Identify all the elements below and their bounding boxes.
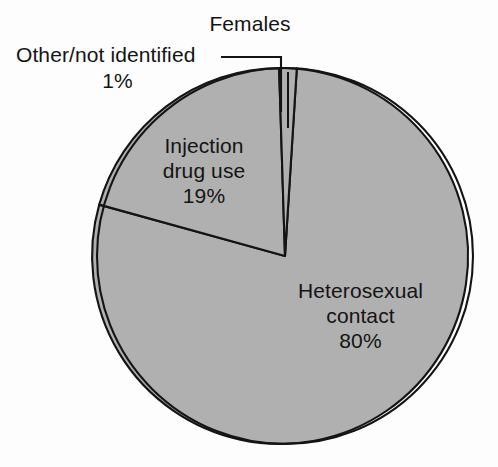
slice-label-heterosexual-contact-line2: contact <box>282 304 439 329</box>
slice-label-injection-drug-use-line2: drug use <box>131 159 277 184</box>
slice-label-injection-drug-use: Injection drug use 19% <box>131 134 277 208</box>
slice-label-heterosexual-contact: Heterosexual contact 80% <box>282 279 439 353</box>
slice-label-other-not-identified-text: Other/not identified <box>16 43 219 68</box>
slice-value-other-not-identified: 1% <box>16 69 219 94</box>
slice-label-other-not-identified: Other/not identified 1% <box>16 43 219 94</box>
chart-title: Females <box>1 12 498 37</box>
slice-label-heterosexual-contact-line1: Heterosexual <box>282 279 439 304</box>
pie-chart-figure: Females Other/not identified 1% Injectio… <box>0 0 498 467</box>
slice-value-heterosexual-contact: 80% <box>282 329 439 354</box>
slice-label-injection-drug-use-line1: Injection <box>131 134 277 159</box>
slice-value-injection-drug-use: 19% <box>131 184 277 209</box>
